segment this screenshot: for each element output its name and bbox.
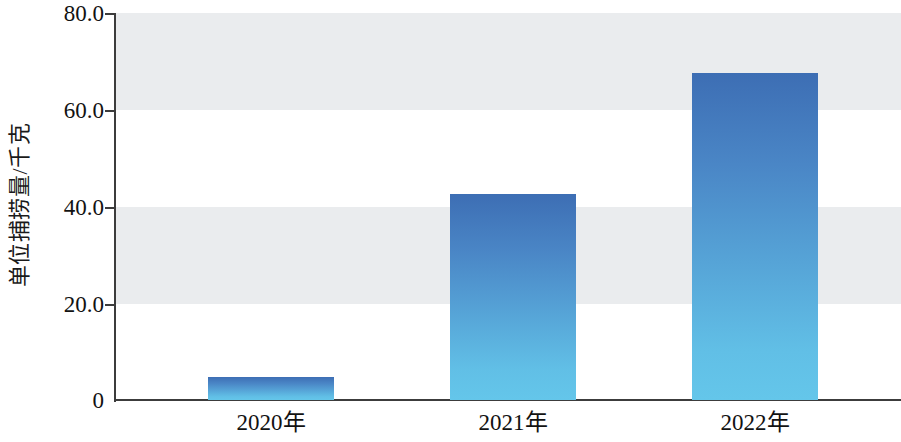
y-tick-label-60: 60.0 <box>32 99 104 122</box>
x-tick-label-2022: 2022年 <box>665 409 845 437</box>
y-tick-label-0: 0 <box>32 389 104 412</box>
y-tick-mark-60 <box>105 110 116 112</box>
x-tick-label-2020: 2020年 <box>181 409 361 437</box>
y-tick-labels: 80.0 60.0 40.0 20.0 0 <box>26 0 104 442</box>
y-tick-mark-40 <box>105 207 116 209</box>
y-tick-label-80: 80.0 <box>32 2 104 25</box>
x-tick-label-2021: 2021年 <box>423 409 603 437</box>
y-tick-mark-20 <box>105 304 116 306</box>
bar-2022 <box>692 73 818 400</box>
y-tick-mark-80 <box>105 13 116 15</box>
y-tick-label-40: 40.0 <box>32 196 104 219</box>
y-tick-label-20: 20.0 <box>32 293 104 316</box>
bar-chart: 单位捕捞量/千克 80.0 60.0 40.0 20.0 0 2020年 202… <box>0 0 901 442</box>
bar-2020 <box>208 377 334 400</box>
bar-2021 <box>450 194 576 400</box>
